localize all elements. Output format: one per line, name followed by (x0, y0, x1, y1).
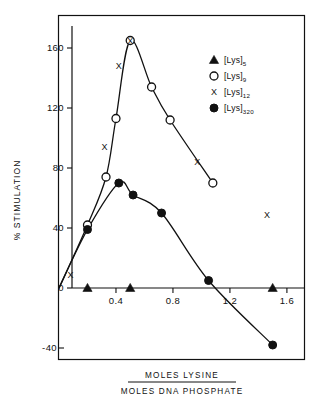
datapoint-Lys320-2 (129, 191, 137, 199)
datapoint-Lys12-2: X (116, 61, 122, 71)
datapoint-Lys320-3 (158, 209, 166, 217)
legend-marker-2: X (211, 87, 217, 97)
datapoint-Lys320-4 (205, 277, 213, 285)
y-axis-title: % STIMULATION (12, 160, 22, 241)
x-tick-label-0.8: 0.8 (166, 295, 180, 306)
legend-marker-3 (210, 104, 218, 112)
x-axis-title-numerator: MOLES LYSINE (145, 371, 219, 380)
legend-label-0: [Lys]5 (224, 55, 247, 67)
datapoint-Lys320-5 (269, 341, 277, 349)
legend-label-3: [Lys]320 (224, 103, 254, 115)
x-tick-label-1.6: 1.6 (280, 295, 294, 306)
legend-label-2: [Lys]12 (224, 87, 250, 99)
y-tick-label-120: 120 (47, 102, 64, 113)
y-tick-label-80: 80 (53, 162, 64, 173)
plot-frame (59, 16, 305, 360)
x-tick-label-0.4: 0.4 (109, 295, 123, 306)
y-axis: -4004080120160 (42, 26, 72, 353)
datapoint-Lys12-3: X (127, 36, 133, 46)
datapoint-Lys320-1 (115, 179, 123, 187)
datapoint-Lys9-1 (102, 173, 110, 181)
legend-marker-0 (209, 55, 218, 63)
datapoint-Lys12-4: X (194, 157, 200, 167)
curve-Lys320 (59, 182, 273, 345)
datapoint-Lys9-6 (209, 179, 217, 187)
x-axis-title-denominator: MOLES DNA PHOSPHATE (121, 387, 244, 396)
datapoint-Lys12-5: X (264, 210, 270, 220)
legend-marker-1 (210, 72, 218, 80)
datapoint-Lys12-0: X (67, 270, 73, 280)
y-tick-label-160: 160 (47, 42, 64, 53)
y-tick-label--40: -40 (42, 342, 57, 353)
curve-Lys9 (59, 40, 213, 288)
datapoint-Lys9-5 (166, 116, 174, 124)
datapoint-Lys9-2 (112, 115, 120, 123)
y-tick-label-40: 40 (53, 222, 64, 233)
chart-legend: [Lys]5[Lys]9X[Lys]12[Lys]320 (209, 55, 254, 115)
datapoint-Lys9-4 (148, 83, 156, 91)
chart-figure: -4004080120160 0.40.81.21.6 XXXXXX [Lys]… (0, 0, 320, 406)
datapoint-Lys320-0 (83, 226, 91, 234)
datapoint-Lys12-1: X (102, 142, 108, 152)
scientific-line-chart: -4004080120160 0.40.81.21.6 XXXXXX [Lys]… (0, 0, 320, 406)
legend-label-1: [Lys]9 (224, 71, 247, 83)
x-tick-label-1.2: 1.2 (223, 295, 237, 306)
